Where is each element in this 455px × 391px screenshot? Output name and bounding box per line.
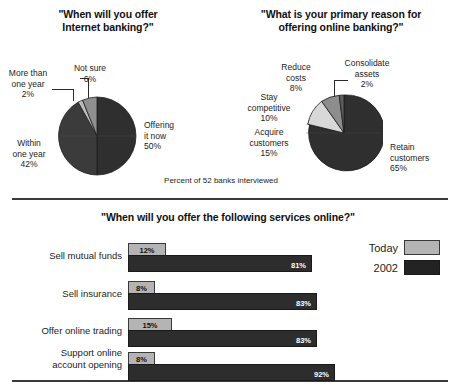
legend-row-2002: 2002 bbox=[352, 260, 440, 275]
legend-swatch-today bbox=[404, 240, 440, 255]
bar-2002-0: 81% bbox=[128, 255, 312, 272]
bar-today-value-1: 8% bbox=[136, 284, 147, 293]
infographic-root: "When will you offer Internet banking?" … bbox=[0, 0, 455, 391]
pie1-label-within-one-year: Within one year 42% bbox=[2, 138, 56, 170]
legend-swatch-2002 bbox=[404, 260, 440, 275]
pie1-label-offering-it-now: Offering it now 50% bbox=[144, 120, 204, 152]
pie2-label-stay-competitive: Stay competitive 10% bbox=[238, 92, 300, 124]
bar-chart-legend: Today 2002 bbox=[352, 240, 452, 282]
legend-label-2002: 2002 bbox=[352, 262, 398, 274]
bar-2002-value-3: 92% bbox=[314, 370, 329, 379]
legend-row-today: Today bbox=[352, 240, 440, 255]
source-note: Percent of 52 banks interviewed bbox=[133, 176, 309, 187]
bar-row-label-3: Support online account opening bbox=[10, 347, 122, 370]
pie2-label-reduce-costs: Reduce costs 8% bbox=[270, 62, 322, 94]
bar-2002-value-1: 83% bbox=[296, 299, 311, 308]
pie2-label-acquire-customers: Acquire customers 15% bbox=[238, 127, 300, 159]
bar-2002-1: 83% bbox=[128, 293, 317, 310]
pie1-label-not-sure: Not sure 6% bbox=[62, 63, 118, 84]
leader-line-more-than-one-year-v bbox=[73, 89, 74, 101]
chart-3-title: "When will you offer the following servi… bbox=[58, 211, 398, 224]
bar-row-label-1: Sell insurance bbox=[10, 288, 122, 300]
bar-row-label-0: Sell mutual funds bbox=[10, 250, 122, 262]
bar-row-label-2: Offer online trading bbox=[0, 325, 122, 337]
bar-2002-value-0: 81% bbox=[291, 261, 306, 270]
pie-chart-primary-reason bbox=[305, 94, 383, 172]
pie1-label-more-than-one-year: More than one year 2% bbox=[0, 68, 56, 100]
bar-today-value-2: 15% bbox=[142, 321, 157, 330]
bar-2002-2: 83% bbox=[128, 330, 317, 347]
divider-top bbox=[12, 198, 448, 200]
pie2-label-retain-customers: Retain customers 65% bbox=[390, 142, 452, 174]
bar-2002-value-2: 83% bbox=[296, 336, 311, 345]
legend-label-today: Today bbox=[352, 242, 398, 254]
chart-1-title: "When will you offer Internet banking?" bbox=[8, 8, 208, 34]
bar-today-value-0: 12% bbox=[139, 246, 154, 255]
pie-chart-when-offer bbox=[57, 96, 137, 176]
pie2-label-consolidate-assets: Consolidate assets 2% bbox=[334, 58, 400, 90]
bar-today-value-3: 8% bbox=[136, 355, 147, 364]
bar-2002-3: 92% bbox=[128, 364, 335, 381]
chart-2-title: "What is your primary reason for offerin… bbox=[232, 8, 450, 34]
